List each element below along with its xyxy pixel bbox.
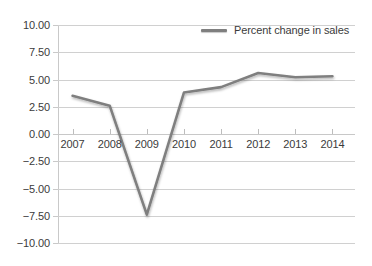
y-axis-label: −2.50	[0, 155, 50, 167]
x-axis-label: 2010	[172, 138, 196, 150]
x-axis-tick	[332, 129, 333, 134]
y-axis-label: −5.00	[0, 183, 50, 195]
legend-line-swatch-icon	[201, 29, 227, 32]
x-axis-label: 2011	[209, 138, 232, 150]
y-axis-label: 10.00	[0, 19, 50, 31]
x-axis-label: 2007	[61, 138, 85, 150]
y-axis-label: 5.00	[0, 74, 50, 86]
x-axis-tick	[295, 129, 296, 134]
x-axis-tick	[184, 129, 185, 134]
x-axis-tick	[221, 129, 222, 134]
y-axis-label: 0.00	[0, 128, 50, 140]
x-axis-tick	[258, 129, 259, 134]
y-axis-label: 2.50	[0, 101, 50, 113]
y-axis-label: −7.50	[0, 210, 50, 222]
y-axis-label: 7.50	[0, 46, 50, 58]
x-axis-label: 2014	[320, 138, 344, 150]
legend-label: Percent change in sales	[234, 24, 349, 36]
x-axis-tick	[110, 129, 111, 134]
y-axis-label: −10.00	[0, 237, 50, 249]
x-axis-label: 2009	[135, 138, 159, 150]
chart-legend: Percent change in sales	[201, 24, 349, 36]
gridline	[58, 243, 355, 244]
x-axis-tick	[147, 129, 148, 134]
series-percent-change-in-sales	[58, 25, 355, 243]
x-axis-label: 2012	[246, 138, 270, 150]
line-chart: 10.007.505.002.500.00−2.50−5.00−7.50−10.…	[0, 0, 372, 266]
plot-area	[58, 25, 355, 243]
x-axis-label: 2008	[98, 138, 122, 150]
x-axis-tick	[73, 129, 74, 134]
x-axis-label: 2013	[283, 138, 307, 150]
